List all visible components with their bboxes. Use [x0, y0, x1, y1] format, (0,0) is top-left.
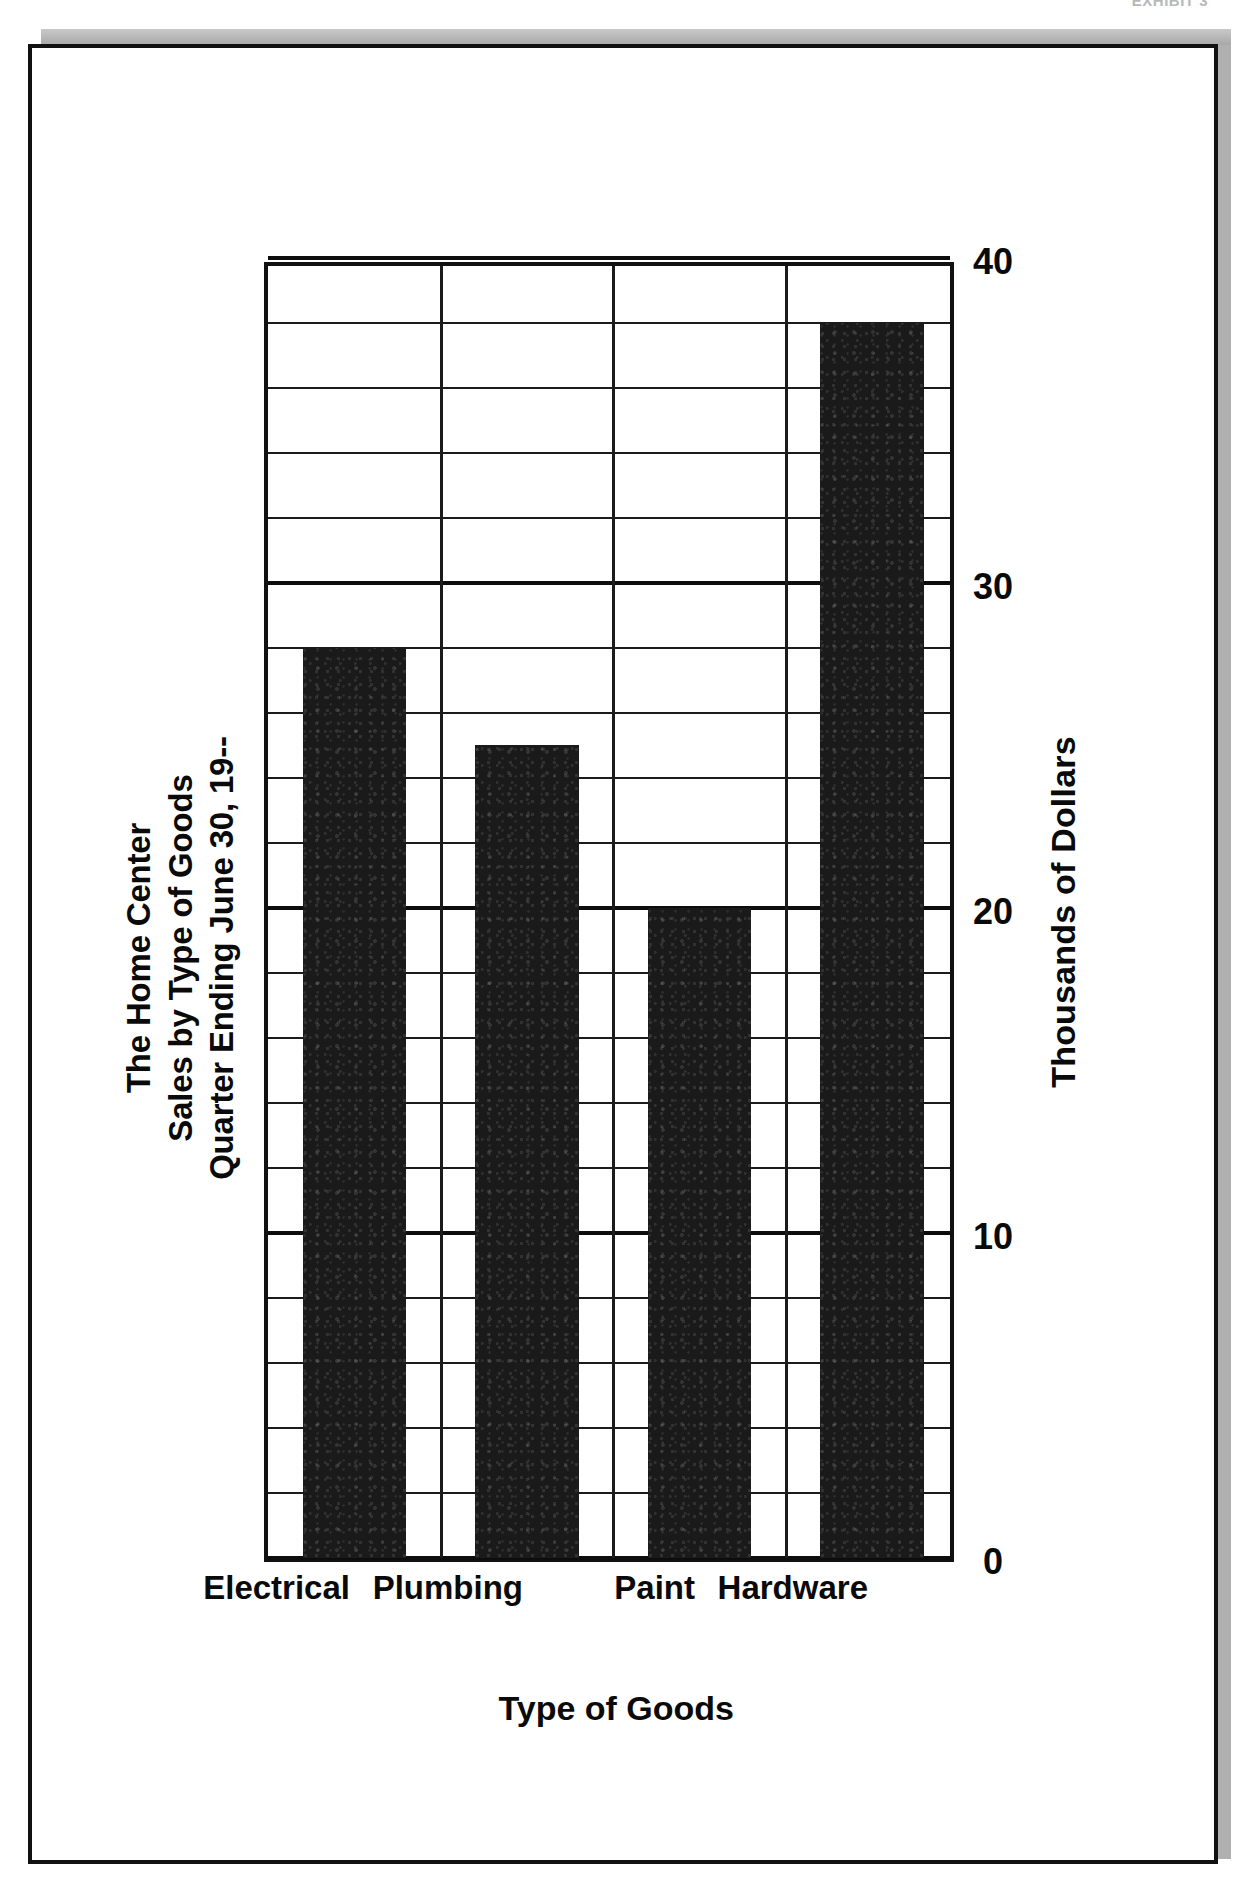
value-tick-label: 0 [983, 1541, 1003, 1583]
value-tick-label: 20 [973, 891, 1013, 933]
chart-title-line-2: Sales by Type of Goods [160, 108, 202, 1808]
category-label: Plumbing [372, 1569, 522, 1607]
major-gridline [268, 256, 950, 260]
chart-title-line-1: The Home Center [118, 108, 160, 1808]
bar [648, 908, 752, 1558]
value-tick-label: 40 [973, 241, 1013, 283]
category-label: Paint [615, 1569, 696, 1607]
bar [303, 648, 407, 1558]
bar [820, 323, 924, 1558]
value-tick-label: 10 [973, 1216, 1013, 1258]
value-tick-label: 30 [973, 566, 1013, 608]
category-axis-title: Type of Goods [499, 1689, 719, 1728]
category-band-separator [612, 266, 615, 1558]
page-header-right: EXHIBIT 3 [1132, 0, 1208, 9]
plot-area [264, 262, 954, 1562]
bar [475, 746, 579, 1559]
bar-chart: The Home Center Sales by Type of Goods Q… [92, 108, 1162, 1808]
category-label: Hardware [717, 1569, 867, 1607]
chart-title: The Home Center Sales by Type of Goods Q… [118, 108, 243, 1808]
scanned-page: EXHIBIT 3 The Home Center Sales by Type … [0, 0, 1260, 1889]
chart-rotation-wrapper: The Home Center Sales by Type of Goods Q… [32, 48, 1222, 1868]
chart-title-line-3: Quarter Ending June 30, 19-- [201, 108, 243, 1808]
category-band-separator [785, 266, 788, 1558]
value-axis-title: Thousands of Dollars [1044, 262, 1083, 1562]
figure-drop-shadow-top [41, 29, 1231, 45]
figure-frame: The Home Center Sales by Type of Goods Q… [28, 44, 1218, 1864]
category-label: Electrical [203, 1569, 350, 1607]
category-band-separator [440, 266, 443, 1558]
